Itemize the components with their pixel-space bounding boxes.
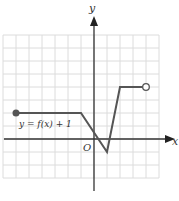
- graph-figure: x y O y = f(x) + 1: [0, 0, 179, 201]
- x-axis-label: x: [172, 135, 179, 148]
- origin-label: O: [83, 142, 91, 153]
- y-axis-label: y: [88, 2, 96, 15]
- closed-endpoint-dot: [13, 110, 20, 117]
- curve-label: y = f(x) + 1: [18, 119, 72, 129]
- open-endpoint-circle: [143, 84, 150, 91]
- y-axis-arrow-icon: [90, 16, 98, 26]
- grid: [3, 35, 159, 178]
